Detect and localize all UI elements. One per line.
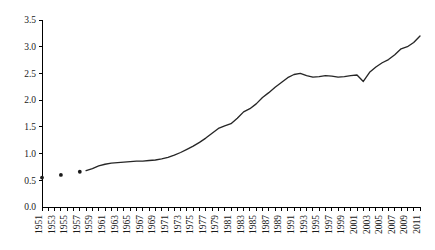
x-tick-label: 2009 — [399, 215, 409, 234]
x-tick-label: 1981 — [223, 215, 233, 234]
x-tick-label: 1969 — [147, 215, 157, 234]
y-tick-label: 3.5 — [24, 15, 36, 25]
x-tick-label: 1971 — [160, 215, 170, 234]
y-tick-label: 3.0 — [24, 42, 36, 52]
chart-container: 0.00.51.01.52.02.53.03.5 195119531955195… — [0, 0, 435, 250]
x-tick-label: 1951 — [34, 215, 44, 234]
data-point — [78, 170, 82, 174]
data-point — [59, 173, 63, 177]
y-tick-label: 2.0 — [24, 95, 36, 105]
x-axis — [42, 207, 420, 211]
x-tick-label: 2007 — [387, 215, 397, 234]
x-tick-label: 1987 — [261, 215, 271, 234]
x-tick-label: 1973 — [173, 215, 183, 234]
data-point — [40, 176, 44, 180]
line-chart: 0.00.51.01.52.02.53.03.5 195119531955195… — [0, 0, 435, 250]
x-tick-label: 1989 — [273, 215, 283, 234]
x-tick-label: 1959 — [84, 215, 94, 234]
x-tick-label: 1965 — [122, 215, 132, 234]
x-tick-label: 1995 — [311, 215, 321, 234]
x-tick-label: 1999 — [336, 215, 346, 234]
x-tick-label: 1997 — [324, 215, 334, 234]
x-tick-label: 1991 — [286, 215, 296, 234]
y-tick-label: 0.5 — [24, 176, 36, 186]
x-tick-label: 1977 — [198, 215, 208, 234]
y-tick-label: 2.5 — [24, 69, 36, 79]
y-tick-label: 0.0 — [24, 202, 36, 212]
x-tick-label: 1983 — [236, 215, 246, 234]
x-tick-label: 2003 — [362, 215, 372, 234]
y-tick-label: 1.0 — [24, 149, 36, 159]
x-tick-label: 1961 — [97, 215, 107, 234]
x-tick-labels: 1951195319551957195919611963196519671969… — [34, 215, 422, 234]
chart-series — [40, 36, 420, 179]
data-line-path — [86, 36, 420, 171]
x-tick-label: 1955 — [59, 215, 69, 234]
x-tick-label: 2011 — [412, 215, 422, 234]
x-tick-label: 1963 — [110, 215, 120, 234]
x-tick-label: 2005 — [374, 215, 384, 234]
x-tick-label: 1993 — [299, 215, 309, 234]
x-tick-label: 1979 — [210, 215, 220, 234]
x-tick-label: 1967 — [135, 215, 145, 234]
y-tick-labels: 0.00.51.01.52.02.53.03.5 — [24, 15, 36, 212]
x-tick-label: 2001 — [349, 215, 359, 234]
x-tick-label: 1957 — [72, 215, 82, 234]
y-tick-label: 1.5 — [24, 122, 36, 132]
x-tick-label: 1985 — [248, 215, 258, 234]
x-tick-label: 1953 — [47, 215, 57, 234]
x-tick-label: 1975 — [185, 215, 195, 234]
